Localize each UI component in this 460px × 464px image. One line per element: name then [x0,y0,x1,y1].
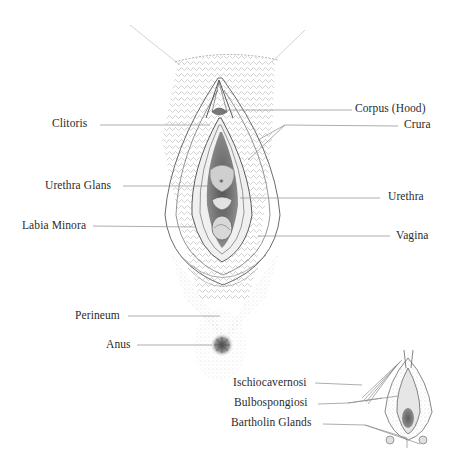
anatomy-diagram: * [0,0,460,464]
anus-radial-lines [214,337,230,353]
label-perineum: Perineum [75,309,120,322]
main-illustration: * [0,0,460,464]
label-labia-minora: Labia Minora [22,219,86,232]
label-corpus-hood: Corpus (Hood) [355,102,426,115]
label-urethra-glans: Urethra Glans [45,179,111,192]
label-ischiocavernosi: Ischiocavernosi [233,376,307,389]
label-anus: Anus [106,338,131,351]
inset-muscle-illustration [362,350,432,444]
urethra-opening-mark: * [219,178,224,188]
label-crura: Crura [404,118,431,131]
label-bulbospongiosi: Bulbospongiosi [234,396,308,409]
thigh-line-right [272,30,305,62]
label-urethra: Urethra [388,190,424,203]
thigh-line-left [130,25,180,65]
label-bartholin-glands: Bartholin Glands [231,416,312,429]
label-clitoris: Clitoris [52,117,87,130]
vaginal-opening [212,216,232,240]
label-vagina: Vagina [396,229,429,242]
